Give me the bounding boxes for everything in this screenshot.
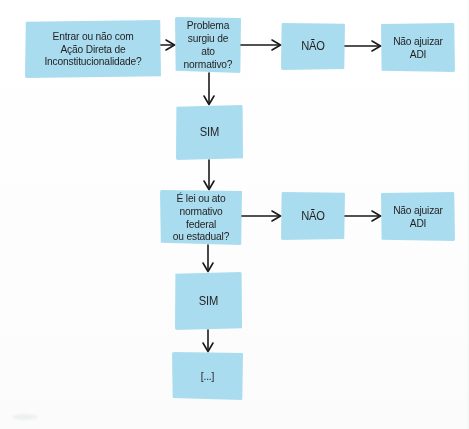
flowchart-node-q1-no: NÃO: [281, 23, 345, 70]
flowchart-node-label: Não ajuizarADI: [386, 35, 449, 61]
flowchart-node-q1: Problemasurgiu de atonormativo?: [175, 17, 241, 73]
flowchart-node-label: Não ajuizarADI: [386, 204, 449, 230]
flowchart-arrow-q1-yes-to-q2: [201, 160, 217, 190]
flowchart-node-continuation: [...]: [172, 352, 243, 400]
flowchart-node-q1-no-result: Não ajuizarADI: [381, 23, 455, 72]
flowchart-canvas: Entrar ou não comAção Direta deInconstit…: [0, 0, 469, 429]
scan-smudge-artifact: [12, 414, 38, 420]
flowchart-arrow-q2-no-to-result: [345, 208, 381, 224]
flowchart-node-label: [...]: [177, 370, 237, 383]
flowchart-arrow-start-to-q1: [161, 37, 175, 53]
flowchart-arrow-q2-to-q2-no: [242, 208, 281, 224]
flowchart-node-label: É lei ou atonormativo federalou estadual…: [166, 192, 237, 244]
flowchart-arrow-q2-to-q2-yes: [200, 245, 216, 272]
flowchart-arrow-q1-no-to-result: [345, 38, 381, 54]
flowchart-node-label: NÃO: [286, 209, 340, 223]
flowchart-arrow-q1-to-q1-no: [241, 37, 281, 53]
flowchart-node-label: SIM: [181, 125, 238, 139]
flowchart-node-label: Entrar ou não comAção Direta deInconstit…: [33, 30, 154, 69]
flowchart-node-label: NÃO: [286, 39, 340, 53]
flowchart-arrow-q1-to-q1-yes: [201, 73, 217, 105]
flowchart-node-start: Entrar ou não comAção Direta deInconstit…: [25, 20, 161, 78]
flowchart-node-q2-yes: SIM: [175, 272, 242, 330]
flowchart-node-q1-yes: SIM: [176, 105, 243, 160]
flowchart-node-q2-no-result: Não ajuizarADI: [381, 192, 455, 241]
flowchart-node-label: Problemasurgiu de atonormativo?: [180, 19, 236, 71]
flowchart-node-label: SIM: [180, 294, 237, 308]
flowchart-arrow-q2-yes-to-continuation: [200, 330, 216, 352]
flowchart-node-q2-no: NÃO: [281, 192, 345, 240]
flowchart-node-q2: É lei ou atonormativo federalou estadual…: [160, 190, 242, 245]
